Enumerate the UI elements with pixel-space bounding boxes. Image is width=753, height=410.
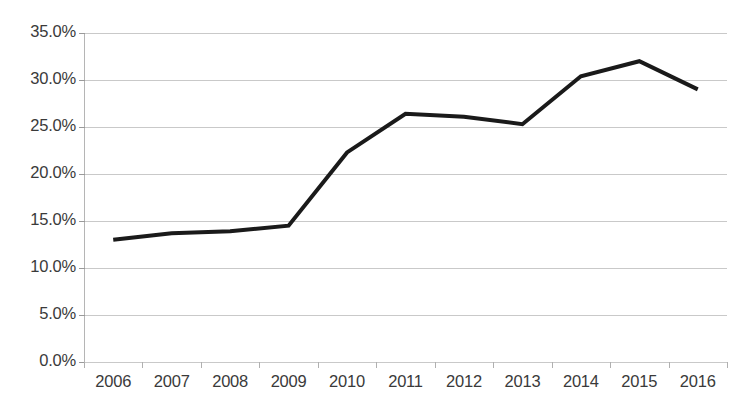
x-axis-tick <box>84 362 85 368</box>
x-axis-tick <box>493 362 494 368</box>
y-axis-tick <box>79 268 85 269</box>
y-axis-tick <box>79 33 85 34</box>
gridline <box>84 221 727 222</box>
x-axis-tick-label: 2016 <box>658 372 738 391</box>
y-axis-tick-label: 15.0% <box>2 210 76 229</box>
x-axis-tick <box>201 362 202 368</box>
x-axis-tick <box>376 362 377 368</box>
y-axis-tick-label: 35.0% <box>2 22 76 41</box>
plot-area <box>84 33 727 362</box>
x-axis-tick <box>318 362 319 368</box>
gridline <box>84 33 727 34</box>
x-axis-tick <box>435 362 436 368</box>
gridline <box>84 268 727 269</box>
x-axis-tick <box>669 362 670 368</box>
gridline <box>84 362 727 363</box>
gridline <box>84 80 727 81</box>
y-axis-tick <box>79 221 85 222</box>
x-axis-tick <box>552 362 553 368</box>
y-axis-tick <box>79 174 85 175</box>
line-chart: 0.0%5.0%10.0%15.0%20.0%25.0%30.0%35.0% 2… <box>0 0 753 410</box>
y-axis-tick-label: 10.0% <box>2 257 76 276</box>
gridline <box>84 127 727 128</box>
y-axis-line <box>84 33 85 362</box>
y-axis-tick <box>79 127 85 128</box>
y-axis-tick <box>79 80 85 81</box>
y-axis-tick-label: 0.0% <box>2 351 76 370</box>
x-axis-tick <box>142 362 143 368</box>
gridline <box>84 315 727 316</box>
x-axis-tick <box>610 362 611 368</box>
y-axis-tick-label: 30.0% <box>2 69 76 88</box>
y-axis-tick-label: 5.0% <box>2 304 76 323</box>
y-axis-tick <box>79 315 85 316</box>
y-axis-tick-label: 25.0% <box>2 116 76 135</box>
gridline <box>84 174 727 175</box>
x-axis-tick <box>259 362 260 368</box>
y-axis-tick-label: 20.0% <box>2 163 76 182</box>
x-axis-tick <box>727 362 728 368</box>
